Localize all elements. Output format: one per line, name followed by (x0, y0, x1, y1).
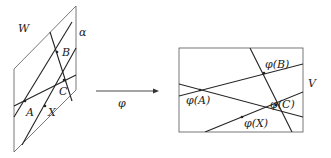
label-b: B (61, 46, 70, 59)
diagram-canvas: W α B C A X φ φ(B) φ(A) φ(C) φ(X) V (0, 0, 331, 158)
plane-w: W α B C A X (14, 6, 87, 152)
label-x: X (47, 106, 57, 119)
point-b (56, 51, 59, 54)
point-x (44, 105, 47, 108)
label-alpha: α (79, 26, 87, 39)
label-phi-x: φ(X) (244, 117, 268, 130)
point-a (24, 100, 27, 103)
label-phi-b: φ(B) (265, 58, 289, 71)
label-c: C (59, 85, 68, 98)
label-v: V (308, 77, 317, 90)
label-phi-a: φ(A) (186, 94, 210, 107)
label-phi-c: φ(C) (270, 98, 295, 111)
line-xc (22, 48, 76, 145)
point-phi-a (199, 89, 202, 92)
label-a: A (25, 106, 34, 119)
label-w: W (18, 22, 31, 35)
label-phi: φ (118, 97, 126, 110)
point-c (63, 79, 66, 82)
point-phi-b (263, 72, 266, 75)
arrow-head-icon (153, 89, 159, 94)
map-arrow: φ (96, 89, 159, 111)
plane-v: φ(B) φ(A) φ(C) φ(X) V (179, 48, 317, 132)
point-phi-x (241, 116, 244, 119)
